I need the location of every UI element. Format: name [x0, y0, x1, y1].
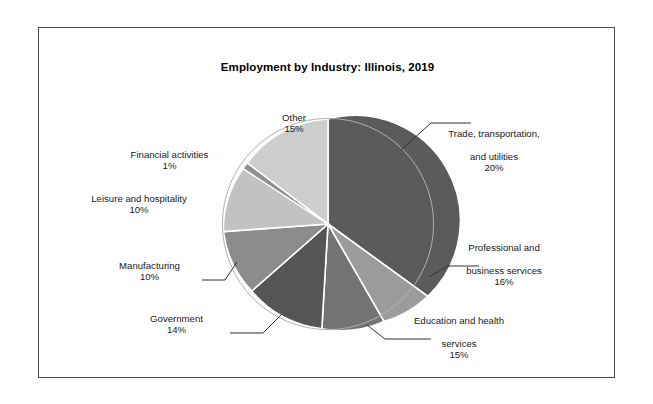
- slice-percent: 20%: [424, 162, 564, 174]
- slice-percent: 10%: [69, 204, 209, 216]
- slice-label-manufacturing: Manufacturing 10%: [97, 248, 202, 294]
- leader-line-government: [230, 314, 282, 333]
- slice-label-education-health-services: Education and health services 15%: [389, 303, 529, 373]
- slice-label-trade-transportation-utilities: Trade, transportation, and utilities 20%: [424, 116, 564, 186]
- leader-line-manufacturing: [202, 262, 237, 280]
- slice-label-line1: Professional and: [468, 242, 539, 253]
- slice-label-professional-business-services: Professional and business services 16%: [439, 230, 569, 300]
- slice-label-other: Other 15%: [254, 100, 334, 146]
- figure-frame: Employment by Industry: Illinois, 2019: [38, 27, 615, 378]
- slice-percent: 15%: [389, 349, 529, 361]
- slice-percent: 1%: [107, 160, 232, 172]
- slice-label-line1: Other: [282, 112, 306, 123]
- slice-label-line2: services: [441, 338, 476, 349]
- pie-chart: Trade, transportation, and utilities 20%…: [39, 28, 616, 379]
- slice-label-line2: business services: [466, 265, 542, 276]
- slice-label-government: Government 14%: [124, 301, 229, 347]
- slice-label-line1: Manufacturing: [119, 260, 180, 271]
- slice-percent: 15%: [254, 123, 334, 135]
- slice-percent: 16%: [439, 276, 569, 288]
- slice-label-line1: Education and health: [414, 315, 504, 326]
- slice-label-financial-activities: Financial activities 1%: [107, 137, 232, 183]
- slice-label-line2: and utilities: [470, 151, 518, 162]
- slice-percent: 10%: [97, 271, 202, 283]
- slice-label-line1: Financial activities: [131, 149, 209, 160]
- slice-label-leisure-hospitality: Leisure and hospitality 10%: [69, 181, 209, 227]
- slice-label-line1: Government: [150, 313, 203, 324]
- slice-percent: 14%: [124, 324, 229, 336]
- slice-label-line1: Leisure and hospitality: [91, 193, 186, 204]
- slice-label-line1: Trade, transportation,: [448, 128, 539, 139]
